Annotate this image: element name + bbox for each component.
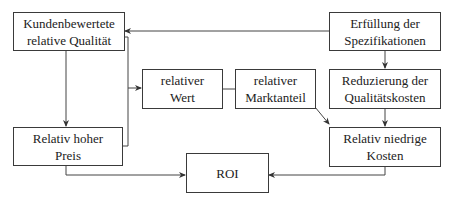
node-label-line: ROI	[216, 165, 238, 182]
node-label-line: Erfüllung der	[344, 15, 426, 32]
node-label-line: Relativ niedrige	[343, 130, 426, 147]
node-label-line: Wert	[161, 89, 204, 106]
node-label-line: Reduzierung der	[342, 72, 428, 89]
node-label-line: Kundenbewertete	[23, 15, 115, 32]
node-relativer-marktanteil: relativer Marktanteil	[235, 69, 316, 109]
node-label-line: Kosten	[343, 147, 426, 164]
edge-marktanteil-to-niedrige-kosten	[315, 107, 329, 124]
node-erfuellung-der-spezifikationen: Erfüllung der Spezifikationen	[329, 12, 441, 51]
edge-niedrige-kosten-to-roi	[269, 166, 385, 175]
edge-hoher-preis-to-roi	[66, 165, 185, 175]
node-reduzierung-der-qualitaetskosten: Reduzierung der Qualitätskosten	[329, 69, 441, 109]
node-label-line: relative Qualität	[23, 32, 115, 49]
node-relativer-wert: relativer Wert	[142, 69, 223, 109]
node-relativ-niedrige-kosten: Relativ niedrige Kosten	[329, 127, 441, 167]
node-label-line: relativer	[245, 72, 306, 89]
node-label-line: Qualitätskosten	[342, 89, 428, 106]
node-relativ-hoher-preis: Relativ hoher Preis	[13, 127, 123, 166]
node-label-line: Relativ hoher	[33, 130, 103, 147]
node-label-line: relativer	[161, 72, 204, 89]
node-label-line: Spezifikationen	[344, 32, 426, 49]
node-label-line: Marktanteil	[245, 89, 306, 106]
node-label-line: Preis	[33, 147, 103, 164]
node-roi: ROI	[186, 153, 269, 193]
node-kundenbewertete-relative-qualitaet: Kundenbewertete relative Qualität	[13, 12, 125, 51]
